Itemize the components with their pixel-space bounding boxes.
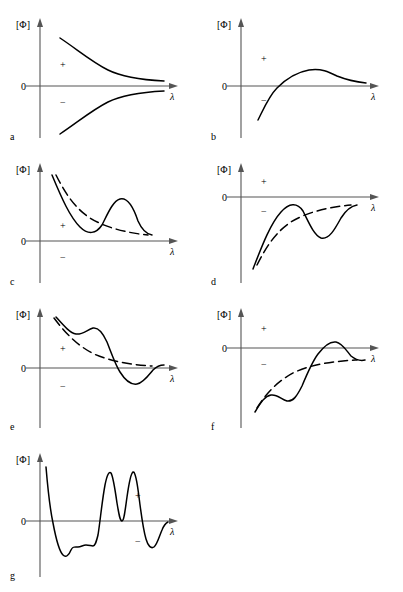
zero-label-a: 0 (21, 81, 26, 92)
x-axis-label-e: λ (169, 373, 175, 384)
curve-background-positive-e (54, 318, 152, 366)
x-axis-label-g: λ (169, 526, 175, 537)
panel-letter-f: f (211, 421, 215, 432)
curve-plain-positive (60, 38, 164, 81)
curve-cotton-negative-d (253, 205, 357, 269)
zero-label-g: 0 (21, 516, 26, 527)
minus-sign-a: − (60, 97, 66, 108)
y-axis-label-e: [Φ] (16, 309, 30, 320)
plus-sign-g: + (135, 490, 141, 501)
axes-d (227, 163, 379, 283)
y-axis-label-b: [Φ] (217, 19, 231, 30)
minus-sign-b: − (261, 95, 267, 106)
panel-letter-b: b (211, 131, 216, 142)
axes-a (26, 18, 178, 138)
plus-sign-f: + (261, 323, 267, 334)
zero-label-c: 0 (21, 236, 26, 247)
zero-label-d: 0 (222, 192, 227, 203)
axes-f (227, 308, 379, 428)
x-axis-label-a: λ (169, 91, 175, 102)
panel-letter-g: g (10, 570, 15, 581)
panel-c: [Φ] 0 λ + − c (0, 155, 200, 290)
axes-c (26, 163, 178, 283)
panel-letter-a: a (10, 131, 15, 142)
plus-sign-b: + (261, 53, 267, 64)
minus-sign-d: − (261, 206, 267, 217)
panel-letter-d: d (211, 276, 216, 287)
x-axis-label-c: λ (169, 246, 175, 257)
panel-d: [Φ] 0 λ + − d (201, 155, 401, 290)
x-axis-label-b: λ (370, 91, 376, 102)
figure-canvas: [Φ] 0 λ + − a [Φ] 0 λ + − b (0, 0, 403, 592)
panel-b: [Φ] 0 λ + − b (201, 10, 401, 145)
x-axis-label-f: λ (370, 353, 376, 364)
minus-sign-g: − (135, 536, 141, 547)
curve-background-negative-f (257, 360, 357, 408)
minus-sign-f: − (261, 359, 267, 370)
y-axis-label-f: [Φ] (217, 309, 231, 320)
y-axis-label-d: [Φ] (217, 164, 231, 175)
panel-letter-c: c (10, 276, 15, 287)
panel-letter-e: e (10, 421, 15, 432)
panel-g: [Φ] 0 λ + − g (0, 445, 200, 585)
curve-simple-cotton-positive (258, 69, 366, 120)
y-axis-label-c: [Φ] (16, 164, 30, 175)
panel-f: [Φ] 0 λ + − f (201, 300, 401, 435)
curve-cotton-negative-crossing-e (56, 317, 164, 384)
curve-plain-negative (60, 91, 164, 134)
curve-cotton-positive-c (52, 175, 152, 235)
plus-sign-e: + (60, 343, 66, 354)
x-axis-label-d: λ (370, 202, 376, 213)
minus-sign-c: − (60, 252, 66, 263)
plus-sign-c: + (60, 220, 66, 231)
plus-sign-a: + (60, 59, 66, 70)
panel-e: [Φ] 0 λ + − e (0, 300, 200, 435)
curve-cotton-positive-crossing-f (255, 342, 365, 412)
zero-label-b: 0 (222, 81, 227, 92)
panel-a: [Φ] 0 λ + − a (0, 10, 200, 145)
zero-label-f: 0 (222, 343, 227, 354)
axes-g (26, 453, 178, 577)
plus-sign-d: + (261, 176, 267, 187)
zero-label-e: 0 (21, 363, 26, 374)
minus-sign-e: − (60, 381, 66, 392)
y-axis-label-a: [Φ] (16, 19, 30, 30)
axes-b (227, 18, 379, 138)
curve-multiple-cotton-g (46, 467, 168, 556)
y-axis-label-g: [Φ] (16, 454, 30, 465)
